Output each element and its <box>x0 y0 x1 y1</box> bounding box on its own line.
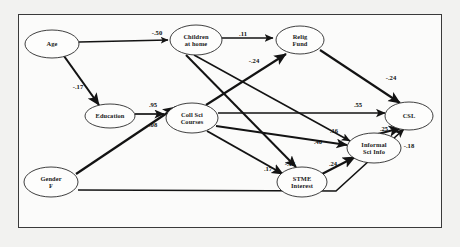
edge-coll-sci-courses-relig-fund <box>206 54 286 105</box>
node-csl[interactable] <box>385 102 433 130</box>
edge-age-children-at-home <box>79 40 168 42</box>
node-stme-interest[interactable] <box>277 167 327 197</box>
edge-relig-fund-csl <box>320 50 400 103</box>
node-age[interactable] <box>25 30 79 58</box>
node-children-at-home[interactable] <box>170 25 222 55</box>
node-relig-fund[interactable] <box>276 26 324 54</box>
diagram-canvas <box>0 0 460 247</box>
node-informal-sci-info[interactable] <box>347 133 401 163</box>
nodes-layer <box>24 25 433 197</box>
node-education[interactable] <box>85 104 135 128</box>
node-coll-sci-courses[interactable] <box>166 103 218 133</box>
node-gender-f[interactable] <box>24 167 78 197</box>
edge-stme-interest-informal-sci-info <box>322 157 355 174</box>
path-diagram-figure: Age Children at home Relig Fund Educatio… <box>0 0 460 247</box>
edge-coll-sci-courses-stme-interest <box>207 131 283 174</box>
edge-age-education <box>64 56 99 105</box>
